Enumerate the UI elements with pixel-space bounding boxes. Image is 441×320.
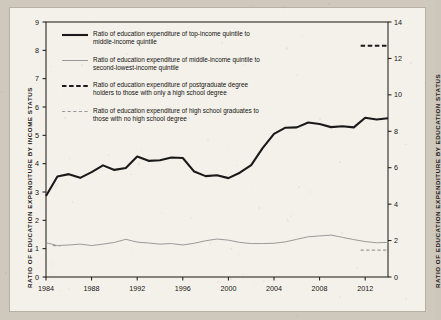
grain-speck <box>429 170 430 171</box>
series-line <box>46 235 388 245</box>
series-layer <box>46 46 388 250</box>
right-axis-title: RATIO OF EDUCATION EXPENDITURE BY EDUCAT… <box>434 74 441 288</box>
chart-paper: RATIO OF EDUCATION EXPENDITURE BY INCOME… <box>10 8 425 311</box>
axis-frame <box>43 22 392 281</box>
plot-canvas <box>10 8 425 311</box>
grain-speck <box>46 1 47 2</box>
grain-speck <box>252 4 254 6</box>
grain-speck <box>0 38 1 39</box>
grain-speck <box>6 281 7 282</box>
grain-speck <box>4 92 5 93</box>
grain-speck <box>5 272 7 274</box>
series-line <box>46 118 388 196</box>
grain-speck <box>296 315 297 316</box>
legend-line-samples <box>62 35 88 112</box>
grain-speck <box>0 91 2 93</box>
grain-speck <box>328 3 330 5</box>
grain-speck <box>434 67 435 68</box>
grain-speck <box>429 100 430 101</box>
